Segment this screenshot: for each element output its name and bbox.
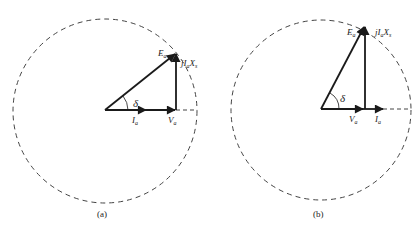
figure-a: Ea jIaXs δ Ia Va (a) (13, 19, 198, 219)
figure-b: Ea jIaXs δ Va Ia (b) (231, 20, 411, 219)
va-label-a: Va (168, 115, 177, 126)
phasor-diagrams: Ea jIaXs δ Ia Va (a) Ea jIaXs δ Va Ia (b… (0, 0, 419, 231)
jiaxs-label-a: jIaXs (180, 58, 198, 69)
dashed-circle-a (13, 19, 197, 203)
delta-arc-b (330, 93, 339, 109)
ea-label-b: Ea (346, 27, 356, 38)
ea-arrow-a (105, 54, 175, 110)
va-label-b: Va (349, 114, 358, 125)
delta-arc-a (123, 96, 128, 110)
ea-label-a: Ea (157, 48, 167, 59)
caption-a: (a) (97, 209, 107, 219)
delta-label-b: δ (340, 92, 346, 104)
delta-label-a: δ (133, 97, 139, 109)
dashed-circle-b (231, 20, 411, 200)
caption-b: (b) (313, 209, 324, 219)
jiaxs-label-b: jIaXs (374, 27, 392, 38)
ia-label-a: Ia (131, 115, 138, 126)
ia-label-b: Ia (374, 114, 381, 125)
